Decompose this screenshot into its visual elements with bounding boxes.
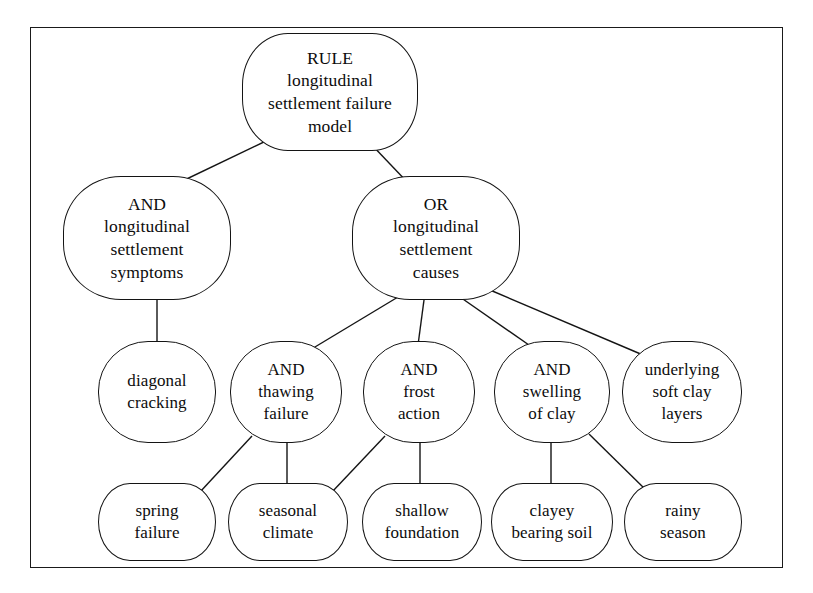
node-label-line: frost — [403, 381, 435, 403]
node-label-line: model — [308, 115, 352, 138]
node-label-line: layers — [661, 403, 702, 425]
node-shallow-foundation[interactable]: shallowfoundation — [362, 483, 482, 561]
node-spring-failure[interactable]: springfailure — [98, 483, 216, 561]
node-label-line: foundation — [385, 522, 460, 544]
node-rule-longitudinal-settlement-failure-model[interactable]: RULElongitudinalsettlement failuremodel — [242, 33, 418, 151]
node-label-line: spring — [135, 500, 178, 522]
node-label-line: AND — [400, 359, 437, 381]
node-label-line: symptoms — [111, 261, 184, 284]
node-label-line: failure — [134, 522, 179, 544]
node-label-line: longitudinal — [104, 215, 190, 238]
node-label-line: clayey — [530, 500, 575, 522]
node-label-line: underlying — [645, 359, 720, 381]
node-label-line: season — [660, 522, 706, 544]
node-label-line: diagonal — [127, 370, 186, 392]
node-label-line: seasonal — [259, 500, 317, 522]
node-label-line: thawing — [258, 381, 313, 403]
node-or-longitudinal-settlement-causes[interactable]: ORlongitudinalsettlementcauses — [352, 176, 520, 300]
node-and-thawing-failure[interactable]: ANDthawingfailure — [230, 341, 342, 443]
node-label-line: AND — [533, 359, 570, 381]
node-label-line: OR — [424, 193, 449, 216]
node-label-line: rainy — [665, 500, 700, 522]
node-clayey-bearing-soil[interactable]: clayeybearing soil — [491, 483, 613, 561]
node-and-frost-action[interactable]: ANDfrostaction — [363, 341, 475, 443]
node-label-line: AND — [267, 359, 304, 381]
figure-canvas: RULElongitudinalsettlement failuremodelA… — [0, 0, 813, 593]
node-label-line: causes — [413, 261, 459, 284]
node-underlying-soft-clay-layers[interactable]: underlyingsoft claylayers — [622, 341, 742, 443]
node-label-line: longitudinal — [393, 215, 479, 238]
node-rainy-season[interactable]: rainyseason — [624, 483, 742, 561]
node-label-line: shallow — [395, 500, 449, 522]
node-label-line: AND — [128, 193, 166, 216]
node-label-line: of clay — [528, 403, 575, 425]
node-and-longitudinal-settlement-symptoms[interactable]: ANDlongitudinalsettlementsymptoms — [63, 176, 231, 300]
node-seasonal-climate[interactable]: seasonalclimate — [228, 483, 348, 561]
node-label-line: climate — [263, 522, 314, 544]
node-label-line: RULE — [307, 47, 353, 70]
node-label-line: soft clay — [653, 381, 712, 403]
node-label-line: settlement — [400, 238, 473, 261]
node-label-line: cracking — [127, 392, 186, 414]
node-label-line: settlement failure — [268, 92, 392, 115]
node-label-line: action — [398, 403, 440, 425]
node-label-line: failure — [263, 403, 308, 425]
node-label-line: swelling — [523, 381, 581, 403]
node-label-line: bearing soil — [512, 522, 593, 544]
node-and-swelling-of-clay[interactable]: ANDswellingof clay — [494, 341, 610, 443]
node-diagonal-cracking[interactable]: diagonalcracking — [98, 341, 216, 443]
node-label-line: longitudinal — [287, 69, 373, 92]
node-label-line: settlement — [111, 238, 184, 261]
